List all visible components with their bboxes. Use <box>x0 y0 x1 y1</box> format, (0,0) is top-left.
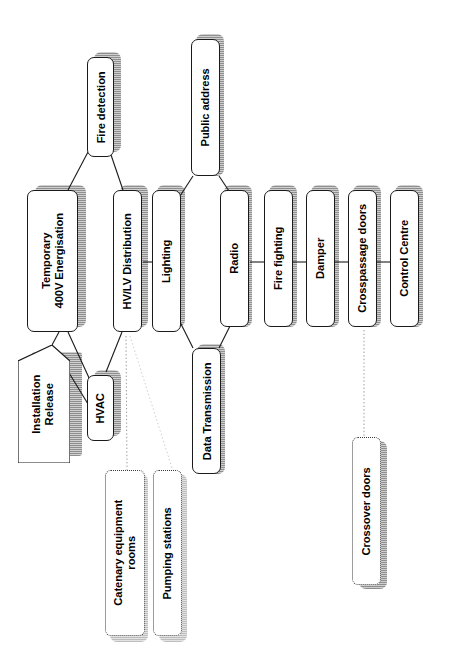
node-hv-lv-distribution[interactable]: HV/LV Distribution <box>113 190 142 332</box>
edge-lighting-to-public-address <box>180 176 193 196</box>
edge-installation-release-to-temporary-400v <box>52 332 59 345</box>
node-public-address[interactable]: Public address <box>191 39 220 176</box>
node-label-fire-fighting: Fire fighting <box>272 227 285 290</box>
node-label-control-centre: Control Centre <box>398 220 411 297</box>
node-label-damper: Damper <box>314 238 327 279</box>
node-label-fire-detection: Fire detection <box>94 71 107 143</box>
node-radio[interactable]: Radio <box>220 190 249 327</box>
node-label-pumping-stations: Pumping stations <box>161 507 174 599</box>
node-damper[interactable]: Damper <box>306 190 335 327</box>
edge-hv-lv-to-hvac <box>106 332 122 372</box>
node-label-crossover-doors: Crossover doors <box>360 467 373 555</box>
node-hvac[interactable]: HVAC <box>87 375 114 441</box>
edge-hv-lv-to-catenary-rooms <box>126 336 127 470</box>
diagram-canvas: Installation Release Temporary 400V Ener… <box>0 0 459 665</box>
node-label-hvac: HVAC <box>94 393 107 423</box>
edge-lighting-to-data-transmission <box>180 322 193 348</box>
node-label-hv-lv-distribution: HV/LV Distribution <box>121 213 134 309</box>
node-installation-release[interactable]: Installation Release <box>18 345 70 463</box>
node-catenary-rooms[interactable]: Catenary equipment rooms <box>105 470 145 636</box>
node-label-catenary-rooms: Catenary equipment rooms <box>112 500 138 606</box>
edge-data-transmission-to-radio <box>219 324 231 348</box>
edge-fire-detection-to-hv-lv <box>110 152 123 190</box>
node-label-installation-release: Installation Release <box>31 374 57 433</box>
node-label-public-address: Public address <box>199 68 212 146</box>
node-fire-detection[interactable]: Fire detection <box>87 57 114 157</box>
node-control-centre[interactable]: Control Centre <box>390 190 419 327</box>
edge-hv-lv-to-pumping-stations <box>130 336 172 468</box>
node-crosspassage-doors[interactable]: Crosspassage doors <box>348 190 377 327</box>
node-label-data-transmission: Data Transmission <box>200 362 213 460</box>
node-label-crosspassage-doors: Crosspassage doors <box>356 204 369 313</box>
node-label-temporary-400v: Temporary 400V Energisation <box>40 213 66 308</box>
node-data-transmission[interactable]: Data Transmission <box>192 348 221 474</box>
connector-layer <box>0 0 459 665</box>
edge-temporary-400v-to-fire-detection <box>68 152 88 190</box>
node-lighting[interactable]: Lighting <box>152 190 181 332</box>
node-crossover-doors[interactable]: Crossover doors <box>352 437 381 585</box>
node-label-lighting: Lighting <box>160 239 173 282</box>
edge-temporary-400v-to-hvac <box>68 332 90 380</box>
node-fire-fighting[interactable]: Fire fighting <box>264 190 293 327</box>
node-temporary-400v[interactable]: Temporary 400V Energisation <box>27 190 78 332</box>
node-pumping-stations[interactable]: Pumping stations <box>153 470 182 636</box>
node-label-radio: Radio <box>228 243 241 274</box>
